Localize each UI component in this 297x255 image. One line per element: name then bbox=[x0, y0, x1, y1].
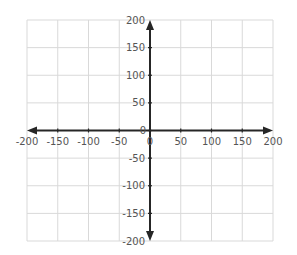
y-tick-label: 200 bbox=[126, 15, 145, 26]
x-axis-right-arrow-icon bbox=[263, 127, 273, 135]
x-tick-label: -50 bbox=[111, 136, 127, 147]
x-tick-label: 150 bbox=[233, 136, 252, 147]
y-tick-label: -100 bbox=[122, 180, 145, 191]
axes bbox=[27, 20, 273, 241]
y-tick-label: 150 bbox=[126, 42, 145, 53]
x-tick-label: -150 bbox=[46, 136, 69, 147]
y-tick-label: 0 bbox=[140, 125, 146, 136]
x-tick-label: 200 bbox=[263, 136, 282, 147]
y-axis-up-arrow-icon bbox=[146, 20, 154, 30]
x-tick-label: 100 bbox=[202, 136, 221, 147]
x-axis-left-arrow-icon bbox=[27, 127, 37, 135]
y-tick-label: -150 bbox=[122, 208, 145, 219]
x-tick-label: -100 bbox=[77, 136, 100, 147]
x-tick-label: 50 bbox=[174, 136, 187, 147]
x-tick-labels: -200-150-100-50050100150200 bbox=[16, 136, 283, 147]
y-tick-label: 50 bbox=[132, 97, 145, 108]
y-tick-label: -50 bbox=[129, 153, 145, 164]
coordinate-plane: -200-150-100-50050100150200 -200-150-100… bbox=[0, 0, 297, 255]
y-axis-down-arrow-icon bbox=[146, 231, 154, 241]
x-tick-label: 0 bbox=[147, 136, 153, 147]
y-tick-label: 100 bbox=[126, 70, 145, 81]
x-tick-label: -200 bbox=[16, 136, 39, 147]
y-tick-label: -200 bbox=[122, 236, 145, 247]
